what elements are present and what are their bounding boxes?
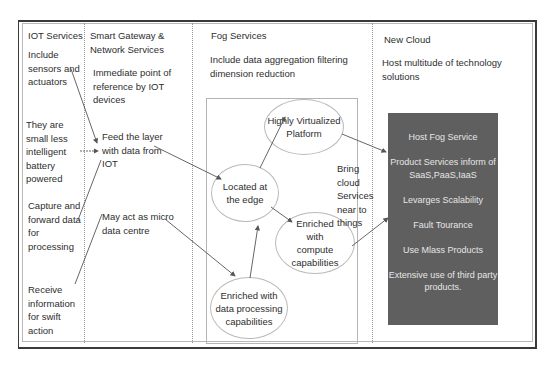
node-highly-virtualized: Highly Virtualized Platform [264,99,344,155]
cloud-item-third-party: Extensive use of third party products. [388,269,498,294]
cloud-item-host-fog: Host Fog Service [388,131,498,144]
iot-item-sensors: Include sensors and actuators [28,48,86,89]
cloud-item-fault-tolerance: Fault Tourance [388,219,498,232]
iot-item-capture-forward: Capture and forward data for processing [28,199,86,253]
gateway-item-feed-layer: Feed the layer with data from IOT [102,130,164,171]
fog-side-note: Bring cloud Services near to things [337,162,383,230]
cloud-item-scalability: Levarges Scalability [388,194,498,207]
gateway-item-reference: Immediate point of reference by IOT devi… [93,66,193,107]
node-label: Located at the edge [222,180,268,206]
cloud-item-mlass: Use Mlass Products [388,244,498,257]
new-cloud-description: Host multitude of technology solutions [382,56,502,83]
iot-services-title: IOT Services [28,29,83,43]
node-located-edge: Located at the edge [211,164,279,222]
cloud-item-product-services: Product Services inform of SaaS,PaaS,Iaa… [388,156,498,181]
node-data-processing: Enriched with data processing capabiliti… [210,277,288,339]
iot-item-small-devices: They are small less intelligent battery … [26,118,86,186]
cloud-services-box: Host Fog Service Product Services inform… [388,113,498,325]
gateway-item-micro-dc: May act as micro data centre [102,210,174,237]
iot-item-receive-info: Receive information for swift action [28,283,82,337]
fog-services-description: Include data aggregation filtering dimen… [210,53,370,80]
node-label: Enriched with data processing capabiliti… [215,289,283,328]
new-cloud-title: New Cloud [384,33,430,47]
node-label: Highly Virtualized Platform [265,114,343,140]
node-label: Enriched with compute capabilities [288,217,342,269]
fog-services-title: Fog Services [211,29,266,43]
gateway-title: Smart Gateway & Network Services [90,29,194,56]
